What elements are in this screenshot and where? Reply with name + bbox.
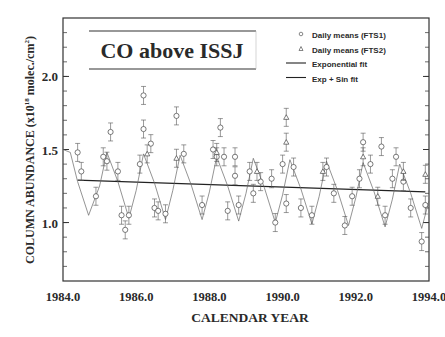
x-tick-label: 1992.0 [339,290,373,304]
exp-sin-fit-line [63,150,429,229]
legend-label: Daily means (FTS2) [312,46,386,55]
x-tick-label: 1994.0 [412,290,445,304]
x-tick-label: 1986.0 [119,290,153,304]
chart-title: CO above ISSJ [100,38,243,63]
fit-lines [63,150,429,229]
x-tick-label: 1988.0 [192,290,226,304]
x-tick-label: 1984.0 [46,290,80,304]
chart-canvas: 1.01.52.0 1984.01986.01988.01990.01992.0… [0,0,445,337]
y-axis-ticks: 1.01.52.0 [42,33,429,267]
y-axis-label: COLUMN ABUNDANCE (x1018 molec./cm2) [23,36,37,264]
y-tick-label: 1.5 [42,143,59,158]
legend-label: Daily means (FTS1) [312,31,386,40]
y-tick-label: 1.0 [42,216,58,231]
x-axis-label: CALENDAR YEAR [191,310,309,325]
x-axis-tick-labels: 1984.01986.01988.01990.01992.01994.0 [46,290,445,304]
title-box: CO above ISSJ [89,31,256,69]
y-tick-label: 2.0 [42,69,58,84]
x-tick-label: 1990.0 [265,290,299,304]
legend-label: Exponential fit [312,60,367,69]
legend-label: Exp + Sin fit [312,75,358,84]
legend: Daily means (FTS1)Daily means (FTS2)Expo… [286,31,386,84]
